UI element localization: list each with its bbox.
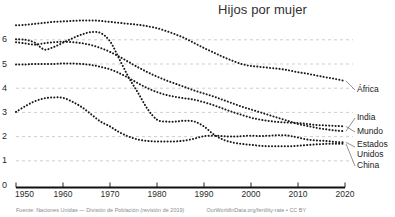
series-label-india-line: India <box>357 113 375 123</box>
series-label-estados-unidos-line: Unidos <box>357 150 388 160</box>
series-label-china: China <box>357 161 379 171</box>
series-label-mundo-line: Mundo <box>357 127 383 137</box>
y-tick-0: 0 <box>2 181 14 190</box>
source-text: Fuente: Naciones Unidas — División de Po… <box>16 207 184 213</box>
x-tick-1950: 1950 <box>15 190 34 199</box>
y-tick-2: 2 <box>2 132 14 141</box>
axis-layer <box>16 183 345 188</box>
x-tick-2010: 2010 <box>289 190 308 199</box>
plot-area <box>0 0 395 217</box>
series-label-estados-unidos: EstadosUnidos <box>357 140 388 159</box>
chart-root: Hijos por mujer 0123456 1950196019701980… <box>0 0 395 217</box>
y-tick-4: 4 <box>2 84 14 93</box>
x-tick-1960: 1960 <box>54 190 73 199</box>
x-tick-1990: 1990 <box>195 190 214 199</box>
y-tick-3: 3 <box>2 108 14 117</box>
footer: Fuente: Naciones Unidas — División de Po… <box>16 207 306 213</box>
series-label-china-line: China <box>357 161 379 171</box>
series-label-india: India <box>357 113 375 123</box>
series-label-africa-line: África <box>357 85 379 95</box>
leader-lines <box>346 81 355 166</box>
x-tick-1980: 1980 <box>148 190 167 199</box>
series-label-africa: África <box>357 85 379 95</box>
chart-canvas <box>0 0 395 217</box>
y-tick-5: 5 <box>2 60 14 69</box>
x-tick-2020: 2020 <box>336 190 355 199</box>
x-tick-2000: 2000 <box>242 190 261 199</box>
y-tick-1: 1 <box>2 156 14 165</box>
y-tick-6: 6 <box>2 35 14 44</box>
series-label-mundo: Mundo <box>357 127 383 137</box>
gridlines <box>16 40 353 161</box>
credit-text: OurWorldInData.org/fertility-rate • CC B… <box>206 207 306 213</box>
series-layer <box>16 20 345 146</box>
x-tick-1970: 1970 <box>101 190 120 199</box>
